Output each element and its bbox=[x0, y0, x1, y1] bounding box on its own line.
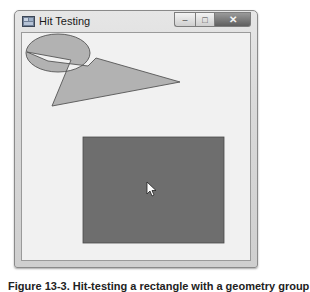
figure-caption: Figure 13-3. Hit-testing a rectangle wit… bbox=[8, 280, 309, 292]
geometry-group-shape[interactable] bbox=[26, 34, 180, 106]
